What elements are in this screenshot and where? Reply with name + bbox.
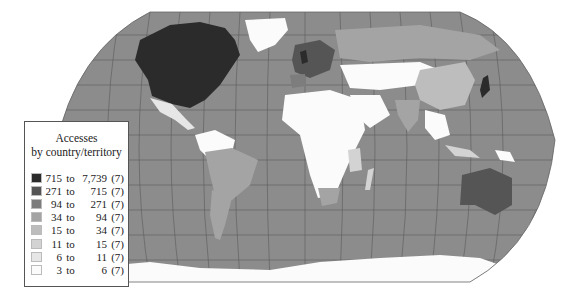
legend-lo: 715	[44, 172, 62, 184]
legend-hi: 34	[79, 224, 107, 236]
legend-count: (7)	[107, 198, 124, 210]
legend-lo: 6	[44, 251, 62, 263]
legend-count: (7)	[107, 185, 124, 197]
legend-title-line1: Accesses	[25, 131, 128, 145]
legend-row: 11 to 15 (7)	[25, 237, 128, 250]
legend-to: to	[62, 185, 79, 197]
legend-swatch	[31, 186, 42, 196]
legend-hi: 94	[79, 211, 107, 223]
legend-swatch	[31, 252, 42, 262]
legend-swatch	[31, 212, 42, 222]
legend-lo: 15	[44, 224, 62, 236]
legend-hi: 7,739	[79, 172, 107, 184]
legend-to: to	[62, 198, 79, 210]
legend-row: 15 to 34 (7)	[25, 224, 128, 237]
legend-swatch	[31, 225, 42, 235]
legend-to: to	[62, 251, 79, 263]
legend-rows: 715 to 7,739 (7) 271 to 715 (7) 94 to 27…	[25, 171, 128, 277]
legend-row: 34 to 94 (7)	[25, 211, 128, 224]
legend-title: Accesses by country/territory	[25, 131, 128, 159]
legend-to: to	[62, 211, 79, 223]
legend-count: (7)	[107, 172, 124, 184]
legend-swatch	[31, 265, 42, 275]
legend-row: 271 to 715 (7)	[25, 184, 128, 197]
legend-count: (7)	[107, 264, 124, 276]
legend-to: to	[62, 264, 79, 276]
legend-hi: 11	[79, 251, 107, 263]
legend-swatch	[31, 239, 42, 249]
legend-lo: 271	[44, 185, 62, 197]
legend-count: (7)	[107, 211, 124, 223]
legend-row: 3 to 6 (7)	[25, 263, 128, 276]
legend-swatch	[31, 173, 42, 183]
legend-count: (7)	[107, 238, 124, 250]
legend-to: to	[62, 172, 79, 184]
legend-row: 6 to 11 (7)	[25, 250, 128, 263]
legend-hi: 6	[79, 264, 107, 276]
map-legend: Accesses by country/territory 715 to 7,7…	[24, 121, 129, 287]
legend-row: 715 to 7,739 (7)	[25, 171, 128, 184]
legend-lo: 94	[44, 198, 62, 210]
legend-hi: 715	[79, 185, 107, 197]
legend-row: 94 to 271 (7)	[25, 197, 128, 210]
legend-swatch	[31, 199, 42, 209]
legend-hi: 271	[79, 198, 107, 210]
legend-lo: 11	[44, 238, 62, 250]
legend-lo: 34	[44, 211, 62, 223]
legend-title-line2: by country/territory	[25, 145, 128, 159]
legend-to: to	[62, 238, 79, 250]
legend-lo: 3	[44, 264, 62, 276]
legend-count: (7)	[107, 251, 124, 263]
region-east-africa	[348, 148, 362, 172]
legend-hi: 15	[79, 238, 107, 250]
region-iberia	[290, 74, 306, 88]
legend-to: to	[62, 224, 79, 236]
legend-count: (7)	[107, 224, 124, 236]
